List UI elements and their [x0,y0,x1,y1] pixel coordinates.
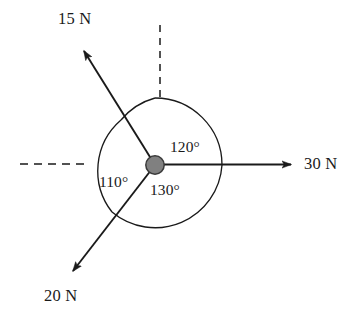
force-vector-15n [84,51,155,165]
force-diagram-canvas: 15 N 30 N 20 N 120° 110° 130° [0,0,355,317]
angle-label-110-degrees: 110° [99,174,128,190]
angle-label-120-degrees: 120° [170,139,200,155]
force-application-point-hub [146,156,164,174]
force-diagram-graphics [0,0,355,317]
force-label-15n: 15 N [58,11,91,28]
arc-110-degrees [98,120,121,212]
force-label-30n: 30 N [304,156,337,173]
arc-closure [121,98,155,120]
angle-label-130-degrees: 130° [150,182,180,198]
force-label-20n: 20 N [44,288,77,305]
